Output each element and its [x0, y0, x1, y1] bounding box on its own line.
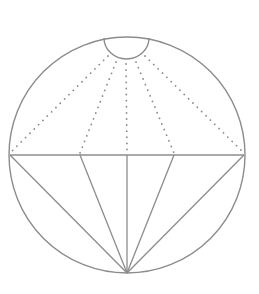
dotted-ray-line	[126, 64, 127, 153]
dotted-ray-line	[136, 62, 174, 153]
solid-rays	[10, 155, 244, 273]
dotted-ray-line	[80, 62, 116, 153]
solid-ray-line	[10, 155, 127, 273]
solid-ray-line	[127, 155, 244, 273]
solid-ray-line	[80, 155, 127, 273]
solid-ray-line	[127, 155, 174, 273]
dotted-ray-line	[145, 56, 244, 153]
circle-diagram	[0, 0, 259, 294]
top-semicircle	[104, 38, 149, 59]
dotted-ray-line	[10, 56, 108, 153]
